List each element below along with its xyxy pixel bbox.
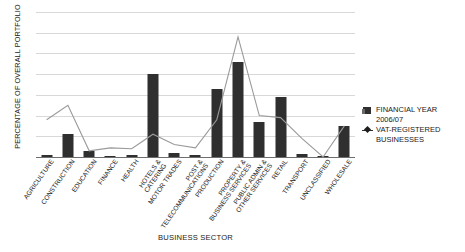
legend-item-financial-year: FINANCIAL YEAR 2006/07 [362, 105, 465, 124]
square-marker-icon [362, 106, 373, 115]
legend-label-vat-registered: VAT-REGISTERED BUSINESSES [376, 125, 440, 144]
x-axis-tick-label: FINANCE [96, 158, 118, 186]
x-axis-tick-label: RETAIL [270, 158, 289, 181]
legend-label-financial-year: FINANCIAL YEAR 2006/07 [376, 105, 437, 124]
diamond-line-marker-icon [362, 126, 373, 135]
x-axis-title: BUSINESS SECTOR [36, 233, 355, 242]
plot-area [36, 12, 355, 157]
x-axis-tick-labels: AGRICULTURECONSTRUCTIONEDUCATIONFINANCEH… [36, 158, 355, 228]
x-axis-tick-label: HEALTH [120, 158, 140, 183]
chart-container: PERCENTAGE OF OVERALL PORTFOLIO 35.0030.… [0, 0, 465, 252]
y-axis-title: PERCENTAGE OF OVERALL PORTFOLIO [13, 2, 22, 152]
legend-item-vat-registered: VAT-REGISTERED BUSINESSES [362, 125, 465, 144]
chart-legend: FINANCIAL YEAR 2006/07 VAT-REGISTERED BU… [362, 105, 465, 145]
line-series [36, 12, 355, 157]
line-path [47, 37, 345, 157]
